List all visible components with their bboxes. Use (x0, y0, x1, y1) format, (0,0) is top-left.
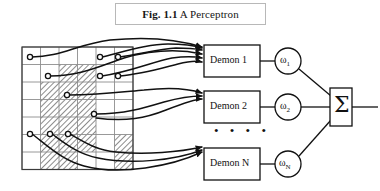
demon-weight-links (260, 61, 275, 164)
sensor-dot (45, 73, 50, 78)
demon-n-label: Demon N (210, 157, 249, 168)
link-weight1-sigma (299, 69, 331, 96)
link-weightN-sigma (299, 120, 331, 156)
demon-ellipsis: • • • • (214, 123, 270, 139)
sensor-dot (65, 131, 70, 136)
summation-symbol: Σ (334, 94, 350, 116)
sensor-dot (97, 54, 102, 59)
weight-summation-links (299, 69, 331, 156)
weight-1-label: ω1 (280, 54, 290, 68)
sensor-dot (27, 131, 32, 136)
sensor-dot (115, 54, 120, 59)
weight-n-label: ωN (279, 157, 291, 171)
sensor-dot (27, 54, 32, 59)
demon-2-label: Demon 2 (210, 100, 247, 111)
sensor-dot (91, 111, 96, 116)
perceptron-diagram (0, 0, 380, 191)
sensor-dot (115, 73, 120, 78)
wire-9 (96, 99, 202, 120)
figure-root: Fig. 1.1 A Perceptron (0, 0, 380, 191)
weight-2-label: ω2 (280, 100, 290, 114)
wire-8 (96, 96, 202, 114)
sensor-dot (64, 92, 69, 97)
sensor-dot (97, 73, 102, 78)
sensor-dot (47, 131, 52, 136)
demon-1-label: Demon 1 (210, 54, 247, 65)
